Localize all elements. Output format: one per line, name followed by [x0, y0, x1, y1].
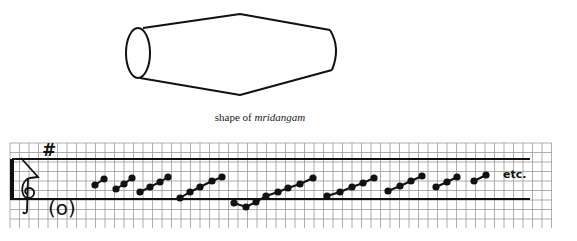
- drum-right-head: [330, 30, 336, 70]
- barline-thick: [10, 159, 14, 200]
- caption-drum-name: mridangam: [254, 111, 305, 123]
- figure: shape of mridangam # (o) etc.: [0, 0, 577, 241]
- clef-mark: [10, 158, 38, 213]
- key-signature-sharp: #: [42, 140, 56, 160]
- continuation-text: etc.: [503, 168, 526, 181]
- caption-prefix: shape of: [215, 111, 255, 123]
- note-dots: [91, 171, 489, 210]
- drum-caption: shape of mridangam: [170, 111, 350, 123]
- mridangam-drawing: [126, 14, 336, 95]
- clef-flag-icon: [21, 158, 38, 178]
- tonic-marker: (o): [48, 196, 76, 220]
- drum-body-top: [143, 14, 330, 30]
- graph-paper-grid: [10, 143, 552, 228]
- drum-left-head: [126, 28, 150, 78]
- drum-body-bottom: [140, 70, 332, 95]
